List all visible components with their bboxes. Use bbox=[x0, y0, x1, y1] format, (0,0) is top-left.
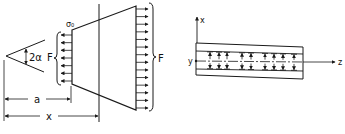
strip-figure: x z y bbox=[188, 16, 342, 79]
y-axis-label: y bbox=[188, 57, 193, 66]
strip-inner-top bbox=[196, 51, 303, 54]
y-axis-origin bbox=[195, 60, 197, 62]
dim-a-label: a bbox=[34, 94, 40, 105]
right-brace bbox=[149, 3, 156, 111]
diagram-canvas: 2α F σ₀ F a x x bbox=[0, 0, 345, 134]
force-right-label: F bbox=[158, 53, 164, 64]
center-line bbox=[196, 61, 303, 62]
dim-x-label: x bbox=[46, 111, 52, 122]
cone-figure: 2α F σ₀ F a x bbox=[4, 3, 164, 122]
right-arrows bbox=[136, 9, 148, 108]
x-axis-label: x bbox=[200, 16, 205, 25]
z-axis-label: z bbox=[338, 58, 342, 67]
force-left-label: F bbox=[47, 52, 53, 63]
left-arrows bbox=[61, 35, 72, 81]
angle-label: 2α bbox=[29, 52, 42, 63]
stress-label: σ₀ bbox=[66, 20, 74, 29]
frustum-body bbox=[72, 6, 136, 110]
left-brace bbox=[54, 32, 61, 85]
